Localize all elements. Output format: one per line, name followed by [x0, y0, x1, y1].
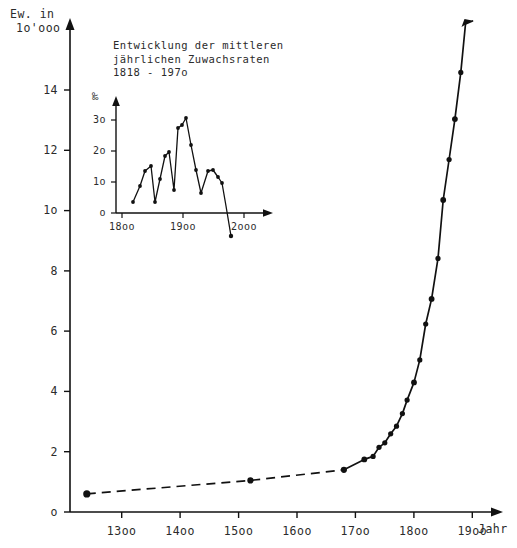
inset-title-line1: Entwicklung der mittleren [113, 39, 284, 53]
main-ytick-label-12: 12 [24, 143, 58, 157]
main-series-dashed [83, 467, 347, 498]
main-xtick-label-1600: 16oo [273, 524, 321, 538]
main-xtick-label-1400: 14oo [156, 524, 204, 538]
main-xtick-label-1900: 19oo [448, 524, 496, 538]
inset-y-axis-title: ‰ [92, 90, 99, 102]
inset-xtick-label-1900: 19oo [163, 221, 203, 232]
inset-y-axis [112, 96, 120, 213]
inset-ytick-label-0: o [86, 207, 106, 218]
main-ytick-label-6: 6 [24, 324, 58, 338]
main-y-axis [66, 18, 75, 512]
main-y-axis-title-line2: 1o'ooo [16, 21, 61, 35]
inset-y-ticks [111, 120, 116, 213]
main-ytick-label-2: 2 [24, 445, 58, 459]
main-xtick-label-1800: 18oo [390, 524, 438, 538]
main-xtick-label-1500: 15oo [215, 524, 263, 538]
inset-title-line3: 1818 - 197o [113, 66, 188, 80]
chart-canvas [0, 0, 517, 548]
main-x-ticks [122, 512, 473, 518]
inset-series [131, 116, 233, 238]
inset-x-ticks [122, 213, 244, 218]
main-ytick-label-14: 14 [24, 83, 58, 97]
main-ytick-label-4: 4 [24, 384, 58, 398]
main-y-ticks [64, 90, 70, 512]
inset-xtick-label-1800: 18oo [102, 221, 142, 232]
main-x-axis [70, 508, 503, 517]
inset-x-axis [116, 209, 273, 217]
main-ytick-label-8: 8 [24, 264, 58, 278]
inset-ytick-label-30: 3o [86, 114, 106, 125]
main-y-axis-title-line1: Ew. in [10, 7, 55, 21]
chart-page: Ew. in 1o'ooo Jahr o 2 4 6 8 1o 12 14 13… [0, 0, 517, 548]
inset-ytick-label-10: 1o [86, 176, 106, 187]
main-xtick-label-1300: 13oo [98, 524, 146, 538]
inset-xtick-label-2000: 2ooo [224, 221, 264, 232]
inset-title-line2: jährlichen Zuwachsraten [113, 53, 270, 67]
main-ytick-label-10: 1o [24, 203, 58, 217]
main-series-solid [344, 19, 473, 470]
main-ytick-label-0: o [24, 505, 58, 519]
inset-ytick-label-20: 2o [86, 145, 106, 156]
main-xtick-label-1700: 17oo [331, 524, 379, 538]
